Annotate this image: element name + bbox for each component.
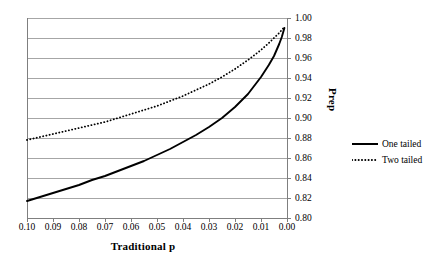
- series-lines: [27, 27, 284, 201]
- x-tick-label: 0.03: [201, 222, 218, 232]
- y-tick-label: 0.86: [295, 153, 312, 163]
- x-tick-label: 0.09: [45, 222, 62, 232]
- legend-item-1[interactable]: One tailed: [352, 136, 422, 152]
- legend-swatch-solid-icon: [352, 139, 378, 149]
- x-tick-label: 0.10: [19, 222, 36, 232]
- series-line-1: [27, 28, 284, 201]
- chart-container: 1.000.980.960.940.920.900.880.860.840.82…: [0, 0, 436, 272]
- x-tick-label: 0.05: [149, 222, 166, 232]
- y-tick-label: 0.84: [295, 173, 312, 183]
- x-tick-marks: [27, 218, 287, 222]
- x-tick-label: 0.08: [71, 222, 88, 232]
- x-tick-label: 0.07: [97, 222, 114, 232]
- y-tick-label: 0.90: [295, 113, 312, 123]
- chart-legend: One tailedTwo tailed: [352, 136, 422, 168]
- series-line-2: [27, 27, 284, 140]
- y-axis-title: Prep: [327, 88, 339, 111]
- y-tick-label: 0.94: [295, 73, 312, 83]
- y-tick-label: 0.98: [295, 33, 312, 43]
- legend-label: One tailed: [382, 139, 421, 149]
- x-tick-label: 0.04: [175, 222, 192, 232]
- y-tick-label: 0.82: [295, 193, 312, 203]
- x-tick-label: 0.00: [279, 222, 296, 232]
- y-tick-marks: [287, 18, 291, 218]
- x-tick-label: 0.01: [253, 222, 270, 232]
- x-axis-title: Traditional p: [0, 240, 286, 252]
- x-tick-label: 0.02: [227, 222, 244, 232]
- legend-item-2[interactable]: Two tailed: [352, 152, 422, 168]
- y-tick-label: 1.00: [295, 13, 312, 23]
- gridlines: [27, 18, 287, 198]
- y-tick-label: 0.88: [295, 133, 312, 143]
- x-tick-label: 0.06: [123, 222, 140, 232]
- y-tick-label: 0.96: [295, 53, 312, 63]
- y-tick-label: 0.92: [295, 93, 312, 103]
- legend-label: Two tailed: [382, 155, 422, 165]
- legend-swatch-dotted-icon: [352, 155, 378, 165]
- y-tick-label: 0.80: [295, 213, 312, 223]
